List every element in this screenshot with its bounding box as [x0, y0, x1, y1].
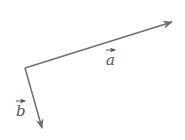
vector-diagram: a b — [0, 0, 185, 140]
label-b: b — [16, 101, 26, 120]
label-a: a — [106, 50, 115, 69]
vector-b-arrow — [25, 68, 42, 128]
vector-a-arrow — [25, 22, 172, 68]
svg-text:a: a — [106, 51, 115, 69]
svg-text:b: b — [16, 102, 26, 120]
